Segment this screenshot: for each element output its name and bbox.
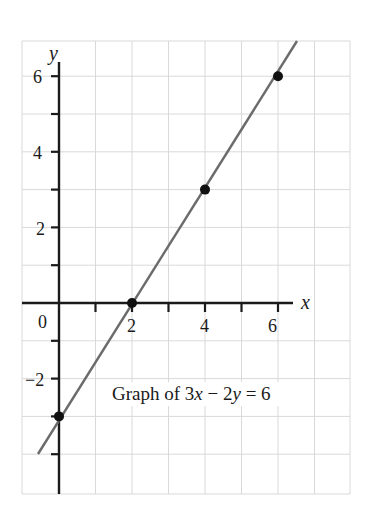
y-tick-label-4: 4 bbox=[33, 143, 42, 163]
y-tick-label-neg2: −2 bbox=[25, 370, 44, 390]
grid bbox=[22, 41, 350, 494]
y-axis-label: y bbox=[47, 42, 58, 65]
point-2-0 bbox=[127, 298, 137, 308]
x-ticks bbox=[96, 303, 279, 312]
x-tick-label-6: 6 bbox=[268, 316, 277, 336]
y-tick-label-6: 6 bbox=[33, 67, 42, 87]
point-0-neg3 bbox=[54, 411, 64, 421]
line-graph-chart: y x 6 4 2 −2 0 2 4 6 Graph of 3x − 2y = … bbox=[0, 0, 368, 518]
graph-caption: Graph of 3x − 2y = 6 bbox=[112, 383, 271, 404]
point-4-3 bbox=[200, 185, 210, 195]
origin-label: 0 bbox=[38, 312, 47, 332]
x-tick-label-4: 4 bbox=[200, 316, 209, 336]
point-6-6 bbox=[273, 71, 283, 81]
x-axis-label: x bbox=[300, 291, 310, 313]
y-tick-label-2: 2 bbox=[36, 219, 45, 239]
x-tick-label-2: 2 bbox=[127, 316, 136, 336]
